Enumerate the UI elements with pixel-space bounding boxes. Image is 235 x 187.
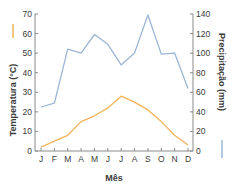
precipitation-line — [41, 15, 188, 107]
right-axis-tick-label: 20 — [196, 126, 206, 136]
climate-chart: 010203040506070020406080100120140JFMAMJJ… — [0, 0, 235, 187]
left-axis-tick-label: 60 — [23, 29, 33, 39]
x-axis-tick-label: D — [185, 154, 191, 164]
left-axis-tick-label: 40 — [23, 68, 33, 78]
left-axis-tick-label: 70 — [23, 9, 33, 19]
x-axis-tick-label: N — [172, 154, 178, 164]
x-axis-title: Mês — [105, 173, 123, 183]
left-axis-tick-label: 30 — [23, 87, 33, 97]
x-axis-tick-label: A — [132, 154, 138, 164]
y-axis-title: Temperatura (°C) — [8, 64, 18, 136]
x-axis-tick-label: M — [64, 154, 71, 164]
x-axis-tick-label: F — [52, 154, 57, 164]
temperature-line — [41, 96, 188, 147]
chart-svg: 010203040506070020406080100120140JFMAMJJ… — [0, 0, 235, 187]
right-axis-tick-label: 0 — [196, 146, 201, 156]
x-axis-tick-label: M — [91, 154, 98, 164]
x-axis-tick-label: O — [158, 154, 165, 164]
right-axis-tick-label: 40 — [196, 107, 206, 117]
y2-axis-title: Precipitação (mm) — [217, 33, 227, 111]
left-axis-tick-label: 0 — [27, 146, 32, 156]
series-lines — [41, 15, 188, 147]
x-axis-tick-label: J — [106, 154, 110, 164]
x-axis-tick-label: A — [78, 154, 84, 164]
x-axis-tick-label: J — [119, 154, 123, 164]
left-axis-tick-label: 20 — [23, 107, 33, 117]
right-axis-tick-label: 100 — [196, 48, 210, 58]
right-axis-tick-label: 60 — [196, 87, 206, 97]
left-axis-tick-label: 50 — [23, 48, 33, 58]
right-axis-tick-label: 120 — [196, 29, 210, 39]
left-axis-tick-label: 10 — [23, 126, 33, 136]
right-axis-tick-label: 80 — [196, 68, 206, 78]
right-axis-tick-label: 140 — [196, 9, 210, 19]
x-axis-tick-label: J — [39, 154, 43, 164]
x-axis-tick-label: S — [145, 154, 151, 164]
